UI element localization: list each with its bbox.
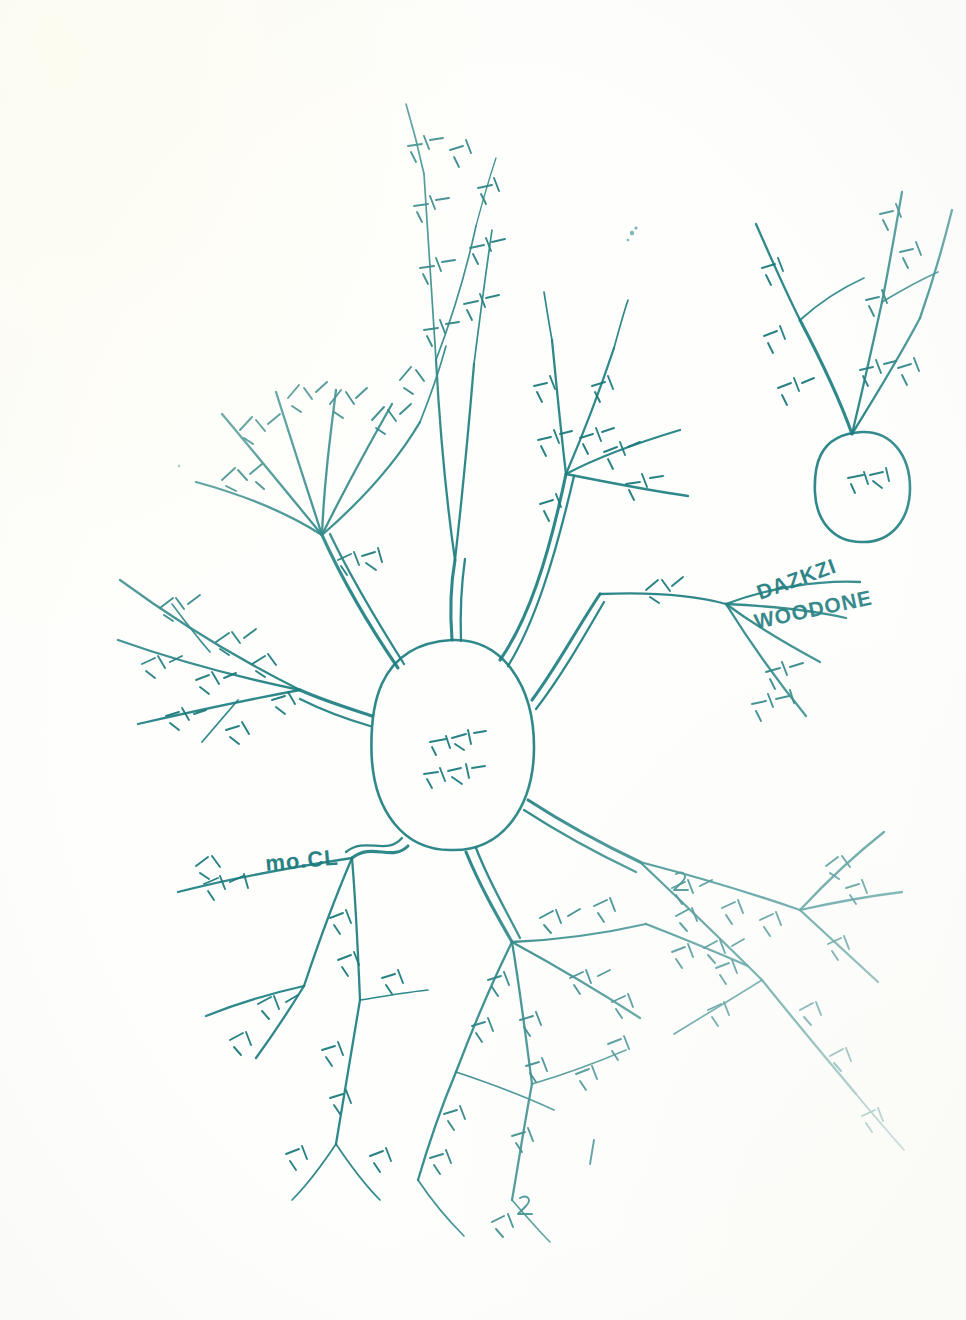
twig [512,1200,550,1242]
rib [336,1000,360,1144]
rib [322,422,420,535]
rib [512,942,532,1084]
trunk-upper-right [500,474,566,660]
branch-upper-left[interactable] [196,346,446,575]
central-node[interactable] [371,640,534,850]
trunk-lower-right [528,800,640,862]
rib [196,482,322,535]
rib [882,192,902,302]
twig [336,1144,380,1200]
branch-left[interactable] [118,580,300,744]
rib [118,640,300,690]
numeral-marks [518,873,688,1214]
twig [476,158,496,226]
twig [418,1180,464,1236]
branch-lower-left[interactable]: mo.CL [178,845,428,1200]
twig [856,1094,904,1150]
central-node-outline [371,640,534,850]
twig [420,346,446,422]
trunk-upper-left [322,535,398,668]
trunk-right [532,594,600,700]
rib [920,210,952,318]
branch-label-group [534,376,663,521]
trunk-group [300,474,640,942]
branch-label-group [196,856,403,1172]
branch-label-group [222,367,424,575]
rib [756,224,800,320]
rib [552,340,566,474]
paper-sheet: DAZKZI WOODONE [0,0,966,1320]
rib [120,580,300,690]
rib [304,858,352,986]
rib [566,474,688,496]
twig [406,104,424,174]
twig [436,226,476,360]
branch-lower-center[interactable] [418,873,748,1242]
rib [800,910,878,982]
rib [800,320,852,434]
branch-label-group [646,577,803,721]
twig [800,278,864,320]
rib [512,942,640,1018]
rib [800,832,884,910]
twig [292,1144,336,1200]
branch-detached-upper-right[interactable] [756,192,952,434]
twig [360,990,428,1000]
rib [455,364,474,560]
twig [172,604,210,652]
branch-upper-center[interactable] [406,104,505,560]
rib [600,593,726,604]
rib [762,980,856,1094]
trunk-lower-center [466,852,512,942]
twig [544,292,552,340]
branch-label-group [762,204,921,405]
rib [512,924,646,942]
secondary-node[interactable] [815,432,910,542]
latin-label-mocl: mo.CL [264,845,339,876]
secondary-node-label [848,468,889,493]
rib [436,360,455,560]
secondary-node-outline [815,432,910,542]
twig [456,1072,554,1110]
branch-lower-right[interactable] [640,832,904,1150]
mindmap-canvas: DAZKZI WOODONE [0,0,966,1320]
trunk-lower-left [352,846,408,858]
twig [614,300,628,348]
rib [352,858,360,1000]
rib [456,942,512,1072]
central-node-label [424,730,486,788]
rib [512,1084,532,1200]
branch-label-group [672,856,883,1132]
branch-upper-right[interactable] [534,292,688,521]
branch-right[interactable]: DAZKZI WOODONE [600,554,874,721]
trunk-upper-center [451,560,455,640]
rib [222,414,322,535]
